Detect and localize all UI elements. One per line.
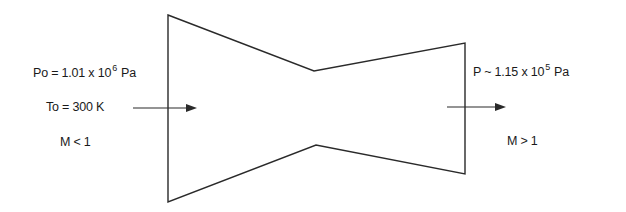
nozzle-outline: [168, 15, 465, 202]
inlet-pressure-exponent: 6: [112, 63, 117, 73]
inlet-mach-label: M < 1: [60, 135, 91, 149]
inlet-pressure-label: Po = 1.01 x 106Pa: [33, 66, 136, 80]
outlet-pressure-exponent: 5: [545, 62, 550, 72]
outlet-pressure-unit: Pa: [554, 65, 569, 79]
inlet-flow-arrow: [133, 104, 197, 112]
outlet-pressure-symbol: P: [473, 65, 481, 79]
outlet-pressure-mantissa: 1.15 x 10: [495, 65, 545, 79]
inlet-temperature-label: To = 300 K: [46, 100, 104, 114]
inlet-pressure-mantissa: 1.01 x 10: [62, 66, 112, 80]
outlet-flow-arrow: [447, 103, 506, 111]
inlet-pressure-relation: =: [51, 66, 58, 80]
outlet-pressure-relation: ~: [484, 65, 491, 79]
inlet-pressure-symbol: Po: [33, 66, 48, 80]
outlet-mach-label: M > 1: [507, 134, 538, 148]
outlet-pressure-label: P ~ 1.15 x 105Pa: [473, 65, 569, 79]
inlet-pressure-unit: Pa: [121, 66, 136, 80]
